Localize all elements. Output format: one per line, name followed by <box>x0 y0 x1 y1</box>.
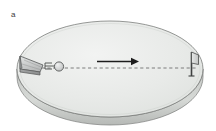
figure-panel: a <box>0 0 216 131</box>
projectile-ball <box>54 62 63 71</box>
figure-illustration <box>0 0 216 131</box>
